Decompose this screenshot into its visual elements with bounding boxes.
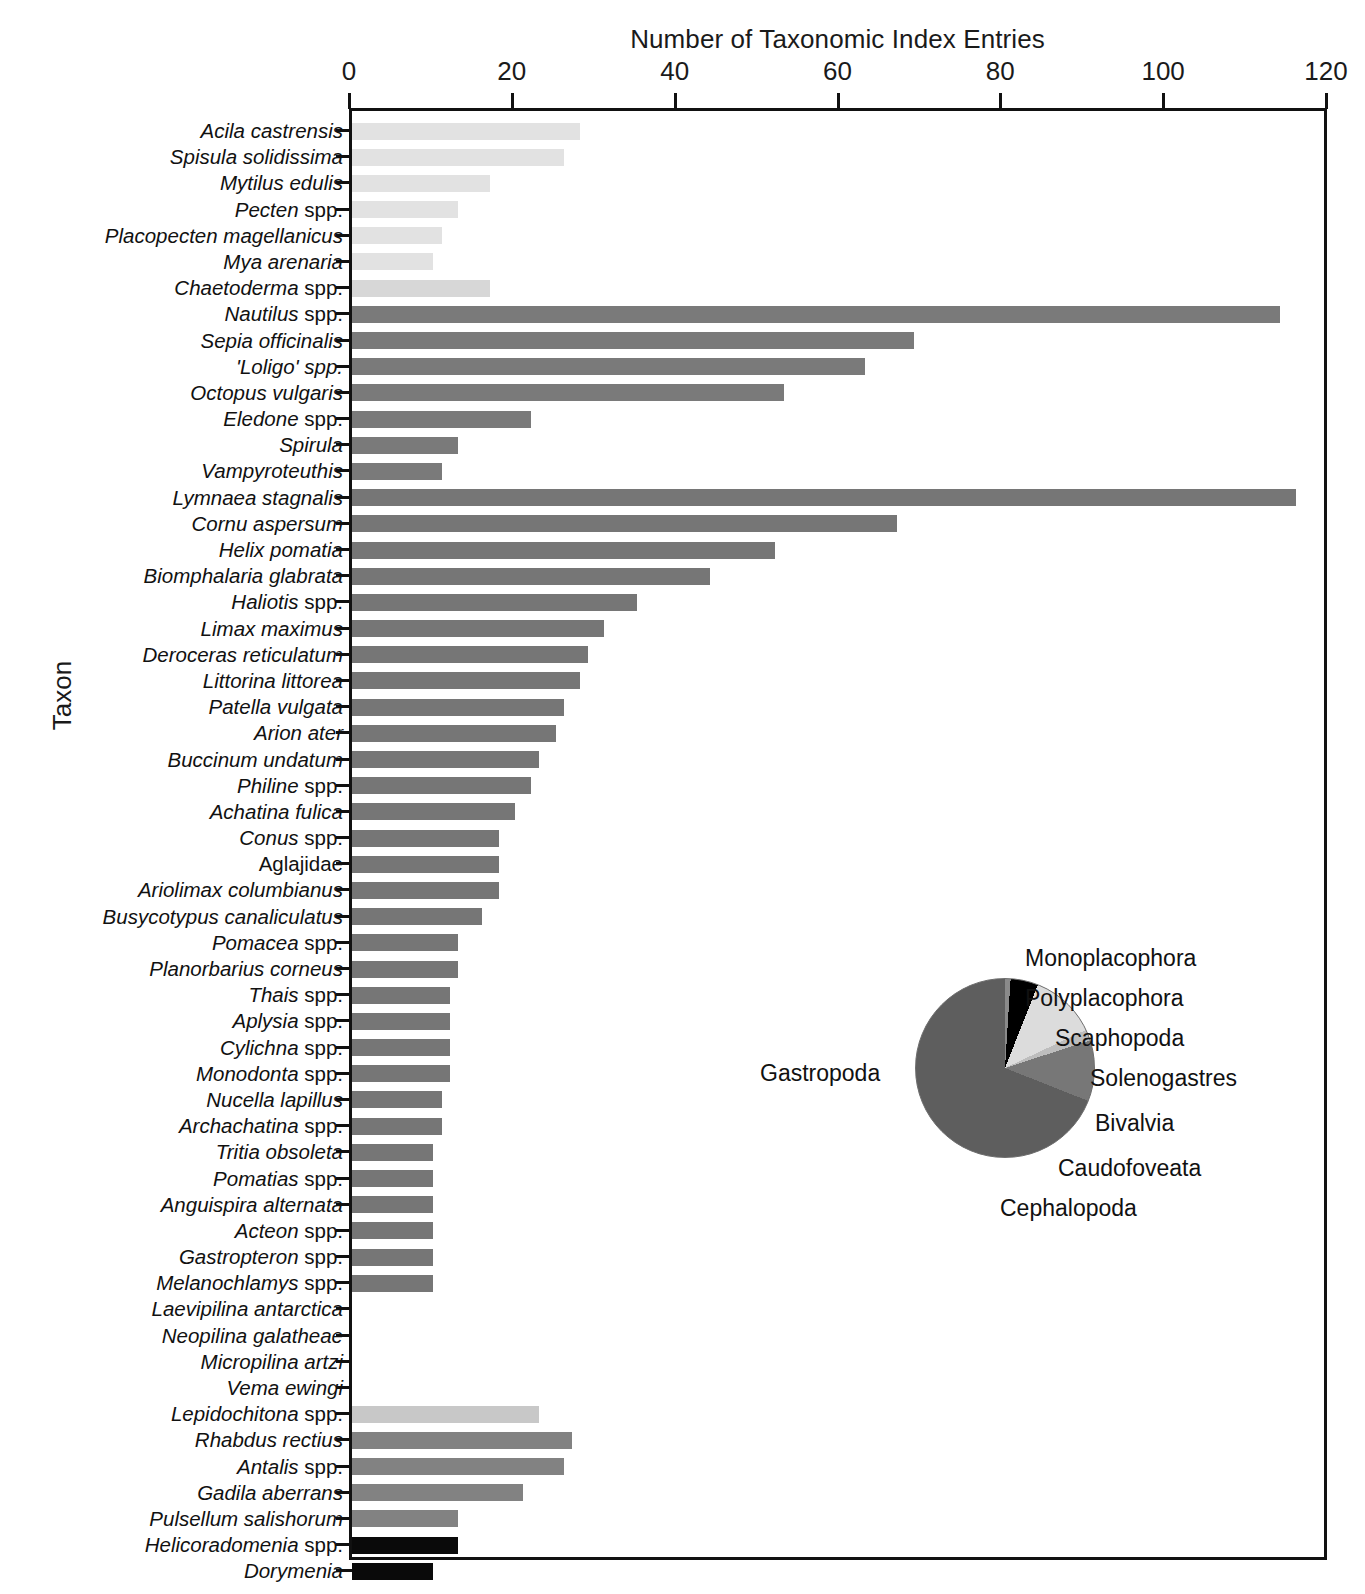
- bar-row-label: Limax maximus: [201, 616, 343, 642]
- bar-row-label: Littorina littorea: [203, 668, 343, 694]
- bar-row: Neopilina galatheae: [0, 1323, 1365, 1349]
- bar-row: Helicoradomenia spp.: [0, 1532, 1365, 1558]
- bar: [352, 1144, 433, 1161]
- bar: [352, 856, 499, 873]
- x-tick-mark: [1162, 93, 1165, 109]
- bar: [352, 568, 710, 585]
- bar: [352, 1432, 572, 1449]
- y-tick-mark: [336, 286, 352, 289]
- bar-row: Laevipilina antarctica: [0, 1296, 1365, 1322]
- bar-row-label: Nucella lapillus: [206, 1087, 343, 1113]
- bar: [352, 175, 490, 192]
- bar: [352, 1249, 433, 1266]
- bar-row-label: Buccinum undatum: [168, 747, 343, 773]
- pie-slice-label: Caudofoveata: [1058, 1155, 1201, 1182]
- bar-row-label: Conus spp.: [239, 825, 343, 851]
- y-tick-mark: [336, 1307, 352, 1310]
- bar-row-label: Gastropteron spp.: [179, 1244, 343, 1270]
- bar-row: Acila castrensis: [0, 118, 1365, 144]
- bar-row: Rhabdus rectius: [0, 1427, 1365, 1453]
- bar-row: 'Loligo' spp.: [0, 354, 1365, 380]
- bar-row: Deroceras reticulatum: [0, 642, 1365, 668]
- bar: [352, 1065, 450, 1082]
- bar: [352, 411, 531, 428]
- y-tick-mark: [336, 731, 352, 734]
- bar-row-label: Vampyroteuthis: [201, 458, 343, 484]
- bar-row-label: Pulsellum salishorum: [149, 1506, 343, 1532]
- y-tick-mark: [336, 1412, 352, 1415]
- y-tick-mark: [336, 1543, 352, 1546]
- bar: [352, 1118, 442, 1135]
- bar-row-label: Planorbarius corneus: [149, 956, 343, 982]
- bar-row-label: Aplysia spp.: [232, 1008, 343, 1034]
- bar: [352, 777, 531, 794]
- bar-row-label: Haliotis spp.: [231, 589, 343, 615]
- y-tick-mark: [336, 1098, 352, 1101]
- bar-row: Nautilus spp.: [0, 301, 1365, 327]
- bar-row-label: Laevipilina antarctica: [152, 1296, 343, 1322]
- bar-row: Littorina littorea: [0, 668, 1365, 694]
- bar: [352, 1196, 433, 1213]
- y-tick-mark: [336, 1019, 352, 1022]
- bar-row: Pulsellum salishorum: [0, 1506, 1365, 1532]
- y-tick-mark: [336, 941, 352, 944]
- bar: [352, 751, 539, 768]
- bar: [352, 830, 499, 847]
- bar-row: Busycotypus canaliculatus: [0, 904, 1365, 930]
- bar-row-label: Helicoradomenia spp.: [145, 1532, 343, 1558]
- bar-row-label: Pecten spp.: [235, 197, 343, 223]
- bar-row: Spirula: [0, 432, 1365, 458]
- bar: [352, 1406, 539, 1423]
- y-tick-mark: [336, 417, 352, 420]
- bar: [352, 646, 588, 663]
- y-tick-mark: [336, 522, 352, 525]
- y-tick-mark: [336, 1360, 352, 1363]
- bar: [352, 306, 1280, 323]
- bar: [352, 463, 442, 480]
- bar: [352, 1563, 433, 1580]
- y-tick-mark: [336, 679, 352, 682]
- y-tick-mark: [336, 1491, 352, 1494]
- bar: [352, 515, 897, 532]
- y-tick-mark: [336, 1229, 352, 1232]
- y-tick-mark: [336, 1150, 352, 1153]
- bar-row-label: Tritia obsoleta: [216, 1139, 343, 1165]
- bar-row: Buccinum undatum: [0, 747, 1365, 773]
- x-tick-label: 40: [635, 56, 715, 87]
- y-tick-mark: [336, 339, 352, 342]
- bar: [352, 672, 580, 689]
- bar-row-label: Octopus vulgaris: [190, 380, 343, 406]
- y-tick-mark: [336, 365, 352, 368]
- pie-slice-label: Cephalopoda: [1000, 1195, 1137, 1222]
- bar: [352, 934, 458, 951]
- y-tick-mark: [336, 208, 352, 211]
- bar-row-label: Acteon spp.: [235, 1218, 343, 1244]
- bar-row-label: Mytilus edulis: [220, 170, 343, 196]
- y-tick-mark: [336, 496, 352, 499]
- bar: [352, 594, 637, 611]
- bar: [352, 725, 556, 742]
- bar: [352, 280, 490, 297]
- y-tick-mark: [336, 993, 352, 996]
- bar-row-label: Lepidochitona spp.: [171, 1401, 343, 1427]
- x-tick-label: 20: [472, 56, 552, 87]
- pie-slice-label: Gastropoda: [760, 1060, 880, 1087]
- bar-row-label: Achatina fulica: [210, 799, 343, 825]
- bar-row: Biomphalaria glabrata: [0, 563, 1365, 589]
- taxonomic-index-chart: Number of Taxonomic Index Entries Taxon …: [0, 0, 1365, 1594]
- bar-row-label: Monodonta spp.: [196, 1061, 343, 1087]
- bar-row-label: Aglajidae: [259, 851, 343, 877]
- bar-row: Mytilus edulis: [0, 170, 1365, 196]
- y-tick-mark: [336, 1569, 352, 1572]
- bar-row-label: Chaetoderma spp.: [174, 275, 343, 301]
- bar-row-label: Eledone spp.: [223, 406, 343, 432]
- bar-row-label: Nautilus spp.: [224, 301, 343, 327]
- bar: [352, 437, 458, 454]
- bar-row: Helix pomatia: [0, 537, 1365, 563]
- bar-row: Lepidochitona spp.: [0, 1401, 1365, 1427]
- y-tick-mark: [336, 915, 352, 918]
- bar-row-label: Helix pomatia: [219, 537, 343, 563]
- bar-row: Sepia officinalis: [0, 328, 1365, 354]
- y-tick-mark: [336, 836, 352, 839]
- x-tick-mark: [837, 93, 840, 109]
